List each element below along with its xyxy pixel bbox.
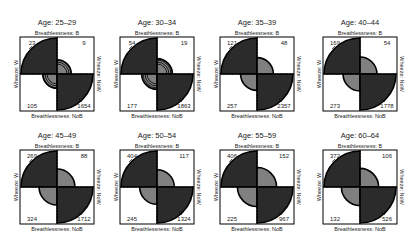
panel-title: Age: 60–64 (341, 131, 379, 140)
count-b-w: 406 (227, 153, 238, 159)
count-b-now: 106 (382, 153, 393, 159)
panel-title: Age: 30–34 (138, 18, 176, 27)
label-bottom: Breathlessness: NoB (31, 226, 83, 232)
panel-title: Age: 25–29 (38, 18, 76, 27)
count-nob-w: 132 (330, 216, 341, 222)
count-b-w: 269 (27, 153, 38, 159)
label-right: Wheeze: NoW (96, 56, 102, 92)
panel-title: Age: 45–49 (38, 131, 76, 140)
label-bottom: Breathlessness: NoB (131, 113, 183, 119)
panel-title: Age: 55–59 (238, 131, 276, 140)
label-top: Breathlessness: B (35, 30, 80, 36)
chart-canvas: Age: 25–29Breathlessness: BBreathlessnes… (0, 0, 417, 247)
label-right: Wheeze: NoW (196, 56, 202, 92)
count-nob-now: 1863 (177, 103, 191, 109)
label-right: Wheeze: NoW (399, 169, 405, 205)
label-bottom: Breathlessness: NoB (231, 226, 283, 232)
label-left: Wheeze: W (213, 172, 219, 201)
fourfold-plot-grid: Age: 25–29Breathlessness: BBreathlessnes… (0, 0, 417, 247)
count-b-now: 19 (181, 40, 188, 46)
count-nob-w: 324 (27, 216, 38, 222)
label-top: Breathlessness: B (235, 30, 280, 36)
count-b-w: 54 (129, 40, 136, 46)
count-nob-now: 526 (382, 216, 393, 222)
fourfold-panel: Age: 30–34Breathlessness: BBreathlessnes… (113, 18, 202, 119)
count-b-now: 48 (281, 40, 288, 46)
label-left: Wheeze: W (316, 59, 322, 88)
label-top: Breathlessness: B (135, 30, 180, 36)
label-bottom: Breathlessness: NoB (334, 113, 386, 119)
fourfold-panel: Age: 40–44Breathlessness: BBreathlessnes… (316, 18, 405, 119)
count-b-now: 152 (279, 153, 290, 159)
label-left: Wheeze: W (13, 172, 19, 201)
label-right: Wheeze: NoW (96, 169, 102, 205)
count-b-now: 88 (81, 153, 88, 159)
count-nob-w: 105 (27, 103, 38, 109)
label-top: Breathlessness: B (338, 30, 383, 36)
label-left: Wheeze: W (13, 59, 19, 88)
panel-title: Age: 50–54 (138, 131, 176, 140)
fourfold-panel: Age: 35–39Breathlessness: BBreathlessnes… (213, 18, 302, 119)
count-b-w: 23 (29, 40, 36, 46)
count-nob-w: 225 (227, 216, 238, 222)
fourfold-panel: Age: 55–59Breathlessness: BBreathlessnes… (213, 131, 302, 232)
count-b-now: 117 (179, 153, 189, 159)
label-bottom: Breathlessness: NoB (131, 226, 183, 232)
count-nob-w: 273 (330, 103, 341, 109)
fourfold-panel: Age: 50–54Breathlessness: BBreathlessnes… (113, 131, 202, 232)
count-b-now: 54 (384, 40, 391, 46)
label-bottom: Breathlessness: NoB (231, 113, 283, 119)
label-left: Wheeze: W (113, 59, 119, 88)
count-nob-now: 967 (279, 216, 290, 222)
panel-title: Age: 40–44 (341, 18, 379, 27)
count-nob-w: 257 (227, 103, 238, 109)
count-nob-now: 1654 (77, 103, 91, 109)
label-top: Breathlessness: B (135, 143, 180, 149)
fourfold-panel: Age: 25–29Breathlessness: BBreathlessnes… (13, 18, 102, 119)
label-top: Breathlessness: B (35, 143, 80, 149)
count-b-w: 404 (127, 153, 138, 159)
count-nob-now: 1324 (177, 216, 191, 222)
count-nob-now: 1712 (77, 216, 91, 222)
count-nob-w: 177 (127, 103, 138, 109)
label-bottom: Breathlessness: NoB (334, 226, 386, 232)
panel-title: Age: 35–39 (238, 18, 276, 27)
label-left: Wheeze: W (213, 59, 219, 88)
label-top: Breathlessness: B (235, 143, 280, 149)
count-nob-now: 1778 (380, 103, 394, 109)
label-right: Wheeze: NoW (196, 169, 202, 205)
label-left: Wheeze: W (316, 172, 322, 201)
label-right: Wheeze: NoW (296, 56, 302, 92)
count-nob-now: 2357 (277, 103, 291, 109)
label-bottom: Breathlessness: NoB (31, 113, 83, 119)
count-b-w: 169 (330, 40, 341, 46)
count-nob-w: 245 (127, 216, 138, 222)
label-right: Wheeze: NoW (399, 56, 405, 92)
label-right: Wheeze: NoW (296, 169, 302, 205)
count-b-w: 121 (227, 40, 238, 46)
count-b-w: 372 (330, 153, 341, 159)
fourfold-panel: Age: 45–49Breathlessness: BBreathlessnes… (13, 131, 102, 232)
label-left: Wheeze: W (113, 172, 119, 201)
label-top: Breathlessness: B (338, 143, 383, 149)
fourfold-panel: Age: 60–64Breathlessness: BBreathlessnes… (316, 131, 405, 232)
